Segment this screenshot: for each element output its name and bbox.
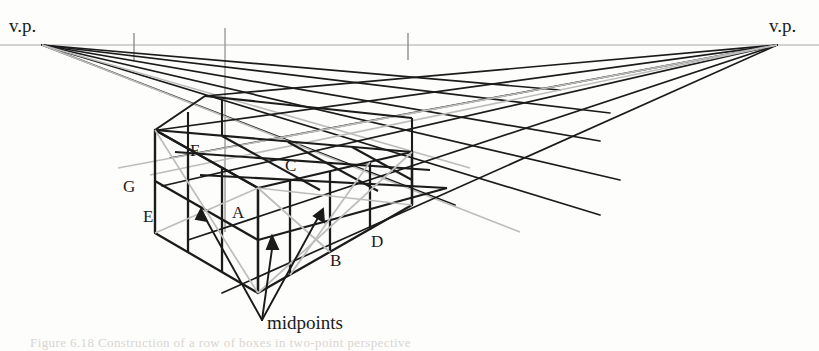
point-label-e: E [143, 208, 153, 225]
right-ray-bottom [188, 45, 777, 240]
right-gray-ray-1 [150, 45, 777, 175]
right-gray-ray-2 [118, 45, 777, 168]
block-upper-tier [155, 96, 412, 233]
perspective-figure: v.p. v.p. A B C D E F G midpoints Figure… [0, 0, 819, 351]
midpoints-label: midpoints [267, 313, 343, 332]
right-vp-label: v.p. [769, 16, 796, 35]
diag-right-b [258, 152, 412, 293]
midpoint-arrow-3-head [314, 209, 324, 222]
left-ray-low [42, 45, 620, 180]
point-label-a: A [232, 204, 244, 221]
top-grid-right-c [288, 142, 378, 191]
point-label-f: F [190, 142, 199, 159]
left-vp-label: v.p. [9, 16, 36, 35]
perspective-drawing-canvas [0, 0, 819, 351]
right-ray-top-back [205, 45, 777, 96]
top-grid-right-b [222, 136, 320, 190]
point-label-b: B [330, 252, 341, 269]
top-grid-left-b [175, 152, 430, 170]
right-ray-base [222, 45, 777, 293]
point-label-c: C [285, 157, 296, 174]
point-label-g: G [123, 178, 135, 195]
right-ray-top-front [158, 45, 777, 130]
point-label-d: D [371, 233, 383, 250]
bleed-through-text: Figure 6.18 Construction of a row of box… [30, 335, 411, 351]
right-ray-low [162, 45, 777, 186]
